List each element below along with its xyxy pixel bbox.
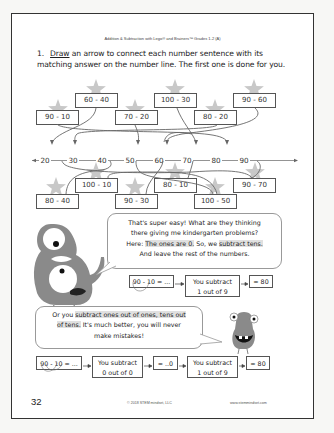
copyright-text: © 2018 STEM mindset, LLC — [127, 401, 172, 405]
website-link[interactable]: www.stemmindset.com — [230, 401, 267, 405]
page-number: 32 — [31, 396, 42, 407]
worksheet-page: Addition & Subtraction with Lego® and Br… — [11, 13, 314, 419]
flow2-arrows — [12, 14, 315, 420]
